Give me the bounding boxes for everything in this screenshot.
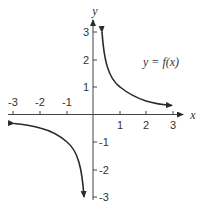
y-tick-label: 3 [83,26,89,38]
y-tick-label: -2 [99,164,109,176]
x-tick-label: -1 [62,96,72,108]
y-tick-label: 1 [83,81,89,93]
x-tick-label: 1 [117,119,123,131]
y-axis-label: y [91,4,98,18]
y-tick-label: -1 [99,136,109,148]
x-tick-label: -3 [8,96,18,108]
x-tick-label: -2 [35,96,45,108]
y-tick-label: 2 [83,54,89,66]
function-graph: -3 -2 -1 1 2 3 3 2 1 -1 -2 -3 x y y = f(… [0,0,200,209]
x-axis-label: x [189,108,196,122]
curve-negative-branch [14,124,84,198]
function-label: y = f(x) [142,55,179,69]
x-tick-label: 3 [170,119,176,131]
y-tick-label: -3 [99,191,109,203]
x-tick-label: 2 [143,119,149,131]
